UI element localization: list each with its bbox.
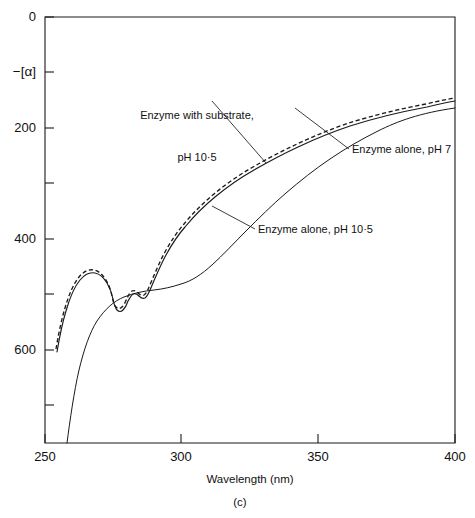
y-tick-label-600: 600 xyxy=(0,343,36,356)
annotation-enzyme-alone-ph105: Enzyme alone, pH 10·5 xyxy=(258,222,398,236)
y-tick-label-200: 200 xyxy=(0,121,36,134)
x-tick-label-350: 350 xyxy=(298,450,338,463)
leader-line-alone-ph105 xyxy=(212,206,255,229)
annotation-enzyme-with-substrate: Enzyme with substrate, pH 10·5 xyxy=(131,80,263,193)
x-tick-label-300: 300 xyxy=(161,450,201,463)
x-axis-ticks xyxy=(45,434,455,443)
x-axis-title: Wavelength (nm) xyxy=(150,473,350,485)
figure-panel-c: 0 200 400 600 −[α] 250 300 350 400 Wavel… xyxy=(0,0,475,518)
x-tick-label-400: 400 xyxy=(435,450,475,463)
panel-caption: (c) xyxy=(200,496,280,508)
y-axis-ticks xyxy=(45,17,54,405)
annotation-enzyme-alone-ph7: Enzyme alone, pH 7 xyxy=(352,142,470,156)
y-tick-label-400: 400 xyxy=(0,232,36,245)
annotation-with-substrate-line2: pH 10·5 xyxy=(131,150,263,164)
leader-line-alone-ph7 xyxy=(295,108,349,149)
y-axis-label: −[α] xyxy=(0,64,36,79)
plot-canvas xyxy=(0,0,475,518)
annotation-with-substrate-line1: Enzyme with substrate, xyxy=(131,108,263,122)
y-tick-label-0: 0 xyxy=(0,10,36,23)
x-tick-label-250: 250 xyxy=(25,450,65,463)
